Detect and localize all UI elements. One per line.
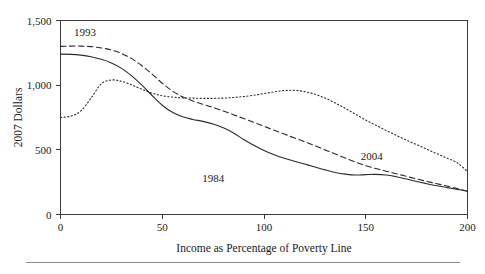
x-tick-label: 50 — [157, 221, 169, 233]
footer-rule — [26, 262, 460, 263]
series-lines — [61, 46, 468, 191]
x-tick-label: 0 — [58, 221, 64, 233]
series-label-1993: 1993 — [74, 26, 97, 38]
series-annotations: 199319842004 — [74, 26, 383, 184]
income-vs-dollars-line-chart: 050100150200 05001,0001,500 199319842004… — [0, 0, 485, 274]
x-axis-ticks: 050100150200 — [58, 215, 477, 233]
plot-frame — [61, 21, 468, 215]
y-tick-label: 1,000 — [27, 79, 52, 91]
y-tick-label: 500 — [35, 144, 52, 156]
x-tick-label: 200 — [459, 221, 476, 233]
x-axis-title: Income as Percentage of Poverty Line — [176, 242, 351, 255]
series-label-1984: 1984 — [202, 172, 225, 184]
series-label-2004: 2004 — [361, 150, 384, 162]
series-line-2004 — [61, 80, 468, 172]
figure-container: 050100150200 05001,0001,500 199319842004… — [0, 0, 485, 274]
y-tick-label: 1,500 — [27, 15, 52, 27]
x-tick-label: 100 — [256, 221, 273, 233]
y-tick-label: 0 — [46, 209, 52, 221]
series-line-1984 — [61, 54, 468, 191]
y-axis-title: 2007 Dollars — [12, 87, 24, 147]
x-tick-label: 150 — [358, 221, 375, 233]
y-axis-ticks: 05001,0001,500 — [27, 15, 61, 221]
plot-border — [61, 21, 468, 215]
